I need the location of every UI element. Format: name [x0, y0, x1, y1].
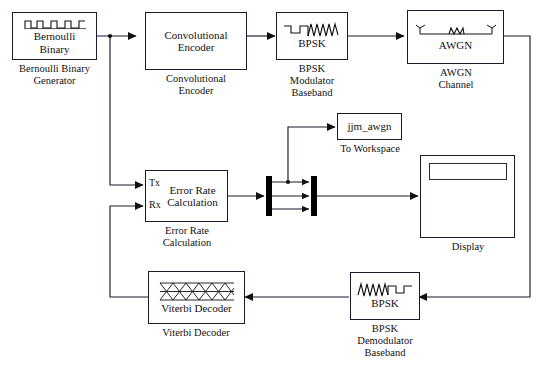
block-label: jjm_awgn: [348, 120, 392, 133]
block-bpsk-modulator-baseband[interactable]: BPSK: [276, 12, 348, 60]
block-label: Error Rate Calculation: [167, 184, 218, 209]
junction-dot-demux-tap: [286, 180, 290, 184]
caption-viterbi-decoder: Viterbi Decoder: [146, 327, 246, 339]
block-bpsk-demodulator-baseband[interactable]: BPSK: [350, 272, 420, 320]
junction-dot-bernoulli: [108, 34, 112, 38]
port-label-tx: Tx: [149, 177, 160, 188]
block-label: Bernoulli Binary: [34, 30, 76, 55]
numeric-readout-icon: [429, 163, 507, 180]
caption-bpsk-demodulator-baseband: BPSK Demodulator Baseband: [345, 323, 425, 359]
block-to-workspace[interactable]: jjm_awgn: [337, 113, 402, 140]
block-label: Convolutional Encoder: [165, 29, 228, 54]
block-viterbi-decoder[interactable]: Viterbi Decoder: [148, 271, 245, 324]
mux-bar-icon[interactable]: [311, 176, 317, 216]
block-convolutional-encoder[interactable]: Convolutional Encoder: [145, 12, 247, 70]
block-label: Viterbi Decoder: [161, 302, 232, 315]
wire-tap-to-workspace: [288, 127, 335, 182]
antenna-noise-antenna-icon: [415, 23, 497, 39]
block-display[interactable]: [420, 155, 515, 238]
block-label: AWGN: [439, 39, 472, 52]
block-awgn-channel[interactable]: AWGN: [407, 10, 504, 64]
block-bernoulli-binary-generator[interactable]: Bernoulli Binary: [12, 12, 97, 60]
caption-bernoulli-binary-generator: Bernoulli Binary Generator: [2, 63, 107, 87]
caption-error-rate-calculation: Error Rate Calculation: [141, 225, 233, 249]
caption-to-workspace: To Workspace: [329, 143, 411, 155]
block-label: BPSK: [371, 297, 399, 310]
caption-bpsk-modulator-baseband: BPSK Modulator Baseband: [272, 63, 352, 99]
simulink-block-diagram: Bernoulli Binary Bernoulli Binary Genera…: [0, 0, 544, 379]
wire-bernoulli-to-tx: [110, 36, 143, 185]
port-label-rx: Rx: [149, 199, 161, 210]
square-to-sine-wave-icon: [282, 22, 342, 37]
block-label: BPSK: [298, 37, 326, 50]
caption-awgn-channel: AWGN Channel: [410, 67, 502, 91]
caption-display: Display: [427, 241, 509, 253]
wire-viterbi-to-rx: [110, 206, 148, 297]
caption-convolutional-encoder: Convolutional Encoder: [144, 73, 248, 97]
sine-to-square-wave-icon: [356, 282, 414, 297]
binary-pulse-train-icon: [23, 17, 87, 30]
trellis-lattice-icon: [158, 281, 236, 302]
demux-bar-icon[interactable]: [266, 176, 272, 216]
